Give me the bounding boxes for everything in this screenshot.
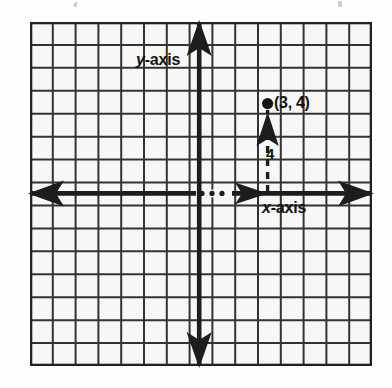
scan-speckle-artifact (337, 1, 342, 8)
x-axis-label-variable: x (262, 199, 271, 216)
coordinate-plane-figure: y-axis x-axis (3, 4) 4 (0, 0, 392, 388)
grid-lines (30, 22, 372, 366)
y-axis-label-suffix: -axis (145, 51, 180, 68)
graph-paper-grid (30, 22, 372, 366)
grid-border (31, 23, 371, 365)
x-axis-label-suffix: -axis (271, 199, 306, 216)
point-coordinate-label: (3, 4) (274, 95, 310, 111)
scan-speckle-artifact (73, 2, 77, 8)
y-axis-label-variable: y (136, 51, 145, 68)
x-axis-label: x-axis (262, 200, 306, 216)
y-axis-label: y-axis (136, 52, 180, 68)
measurement-value-label: 4 (266, 146, 274, 161)
